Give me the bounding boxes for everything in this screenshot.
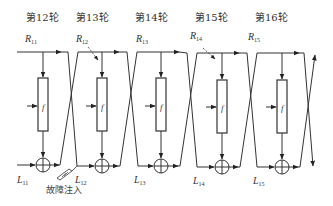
- r13-label: R13: [135, 33, 148, 45]
- l13-label: L13: [133, 174, 146, 186]
- round-14-f-block: f: [138, 52, 178, 173]
- r11-label: R11: [24, 33, 37, 45]
- diagram-svg: 第12轮 第13轮 第14轮 第15轮 第16轮 R11 R12 R13 R14…: [0, 0, 333, 206]
- r14-label: R14: [189, 30, 202, 42]
- feistel-fault-diagram: 第12轮 第13轮 第14轮 第15轮 第16轮 R11 R12 R13 R14…: [0, 0, 333, 206]
- round-14-title: 第14轮: [135, 11, 168, 23]
- svg-text:L11: L11: [16, 174, 28, 186]
- svg-text:R14: R14: [189, 30, 202, 42]
- svg-text:R11: R11: [24, 33, 37, 45]
- round-13-f-block: f: [77, 52, 118, 173]
- svg-text:R12: R12: [75, 33, 88, 45]
- round-16-title: 第16轮: [255, 11, 288, 23]
- svg-text:R15: R15: [247, 31, 260, 43]
- round-15-title: 第15轮: [195, 11, 228, 23]
- round-12-f-block: f: [17, 52, 59, 172]
- l15-label: L15: [252, 175, 265, 187]
- round-13-title: 第13轮: [76, 11, 109, 23]
- round-16-f-block: f: [257, 53, 298, 174]
- l14-label: L14: [192, 175, 205, 187]
- round-12-title: 第12轮: [26, 11, 59, 23]
- svg-text:L13: L13: [133, 174, 146, 186]
- svg-text:R13: R13: [135, 33, 148, 45]
- svg-text:L14: L14: [192, 175, 205, 187]
- fault-injection-label: 故障注入: [46, 184, 82, 195]
- r12-label: R12: [75, 33, 88, 45]
- fault-arrow-r12-icon: [88, 47, 98, 60]
- l11-label: L11: [16, 174, 28, 186]
- r15-label: R15: [247, 31, 260, 43]
- fault-injection-probe-icon: [57, 166, 77, 180]
- round-15-f-block: f: [197, 53, 238, 174]
- svg-text:L15: L15: [252, 175, 265, 187]
